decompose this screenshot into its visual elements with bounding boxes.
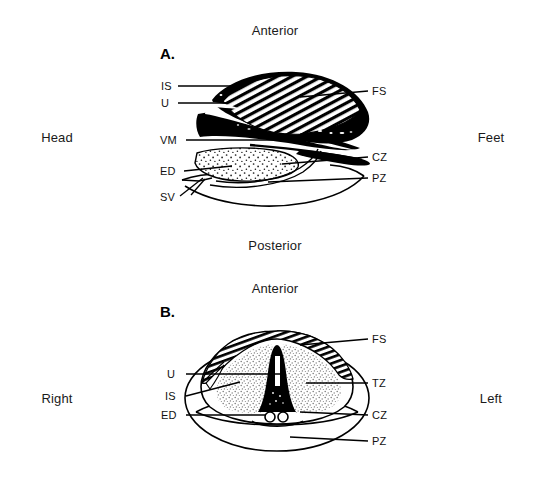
panel-b-label-ed: ED	[161, 410, 177, 421]
leader-a-pz	[268, 178, 368, 182]
panel-a-label-ed: ED	[160, 166, 176, 177]
panel-a-label-pz: PZ	[372, 173, 386, 184]
panel-b-label-tz: TZ	[372, 378, 386, 389]
panel-b-label-is: IS	[165, 391, 176, 402]
panel-a-pz-outline	[185, 176, 364, 206]
orientation-posterior: Posterior	[248, 239, 301, 252]
panel-a-letter: A.	[160, 46, 175, 61]
panel-b-label-cz: CZ	[372, 410, 387, 421]
panel-b-lumen-slit	[275, 356, 280, 386]
panel-b-artwork	[185, 331, 369, 451]
panel-a-label-cz: CZ	[372, 152, 387, 163]
panel-b-ed-duct-right	[265, 412, 275, 422]
panel-a-label-vm: VM	[160, 135, 177, 146]
panel-a-label-sv: SV	[160, 192, 175, 203]
leader-b-pz	[290, 437, 368, 441]
panel-b-label-u: U	[167, 369, 175, 380]
panel-a-artwork	[178, 68, 375, 206]
panel-a-label-is: IS	[161, 81, 172, 92]
panel-b-label-fs: FS	[372, 334, 386, 345]
orientation-left: Left	[480, 392, 502, 405]
panel-b-letter: B.	[160, 304, 175, 319]
orientation-feet: Feet	[478, 131, 505, 144]
orientation-anterior-top: Anterior	[252, 24, 299, 37]
orientation-right: Right	[41, 392, 72, 405]
panel-a-label-fs: FS	[372, 86, 386, 97]
orientation-head: Head	[41, 131, 73, 144]
panel-b-label-pz: PZ	[372, 436, 386, 447]
figure-root: Anterior Head Feet Posterior Anterior Ri…	[0, 0, 547, 484]
panel-b-ed-duct-left	[278, 412, 288, 422]
panel-a-label-u: U	[161, 98, 169, 109]
orientation-anterior-lower: Anterior	[252, 282, 299, 295]
